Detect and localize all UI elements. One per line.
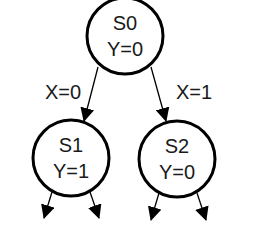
state-s2-name: S2 <box>165 135 189 157</box>
state-s0: S0 Y=0 <box>87 0 163 74</box>
state-s1-circle <box>33 120 109 196</box>
state-s2: S2 Y=0 <box>139 121 215 197</box>
state-s2-output: Y=0 <box>159 161 195 183</box>
state-s0-name: S0 <box>113 12 137 34</box>
outgoing-arrow-s2-left <box>151 193 159 220</box>
state-s1-name: S1 <box>59 134 83 156</box>
outgoing-arrow-s1-right <box>90 192 99 218</box>
transition-arrow-s0-s1 <box>84 67 98 121</box>
state-s1: S1 Y=1 <box>33 120 109 196</box>
state-s1-output: Y=1 <box>53 160 89 182</box>
outgoing-arrow-s1-left <box>44 192 52 218</box>
state-diagram: S0 Y=0 S1 Y=1 S2 Y=0 X=0 X=1 <box>0 0 254 249</box>
transition-label-x1: X=1 <box>176 81 212 103</box>
state-s0-output: Y=0 <box>107 38 143 60</box>
outgoing-arrow-s2-right <box>197 193 206 220</box>
transition-arrow-s0-s2 <box>151 67 166 121</box>
transition-label-x0: X=0 <box>45 81 81 103</box>
state-s2-circle <box>139 121 215 197</box>
